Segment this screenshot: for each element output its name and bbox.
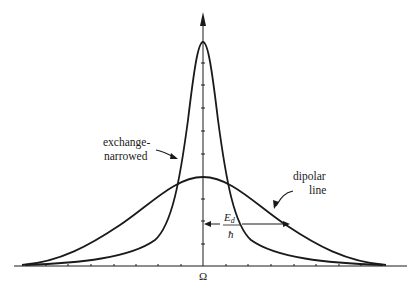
dipolar-pointer-arrowhead-icon: [273, 200, 279, 209]
exchange-narrowed-label-line2: narrowed: [104, 150, 148, 162]
exchange-pointer-arrowhead-icon: [170, 153, 178, 159]
width-numerator: Ed: [223, 211, 236, 225]
y-axis-arrowhead-icon: [200, 12, 206, 26]
line-shape-diagram: exchange- narrowed dipolar line Ed ħ Ω: [0, 0, 417, 291]
width-denominator: ħ: [228, 228, 234, 240]
dipolar-label-line2: line: [309, 184, 326, 196]
width-marker-left-arrowhead-icon: [204, 221, 211, 227]
exchange-narrowed-label-line1: exchange-: [103, 136, 150, 149]
center-frequency-label: Ω: [199, 270, 207, 282]
dipolar-label-line1: dipolar: [293, 170, 326, 183]
dipolar-pointer-arrow-icon: [276, 191, 293, 206]
